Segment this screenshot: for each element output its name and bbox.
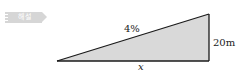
slope-triangle-diagram (0, 0, 237, 75)
base-label: x (138, 62, 144, 72)
slope-label: 4% (124, 24, 140, 34)
height-label: 20m (213, 38, 235, 48)
